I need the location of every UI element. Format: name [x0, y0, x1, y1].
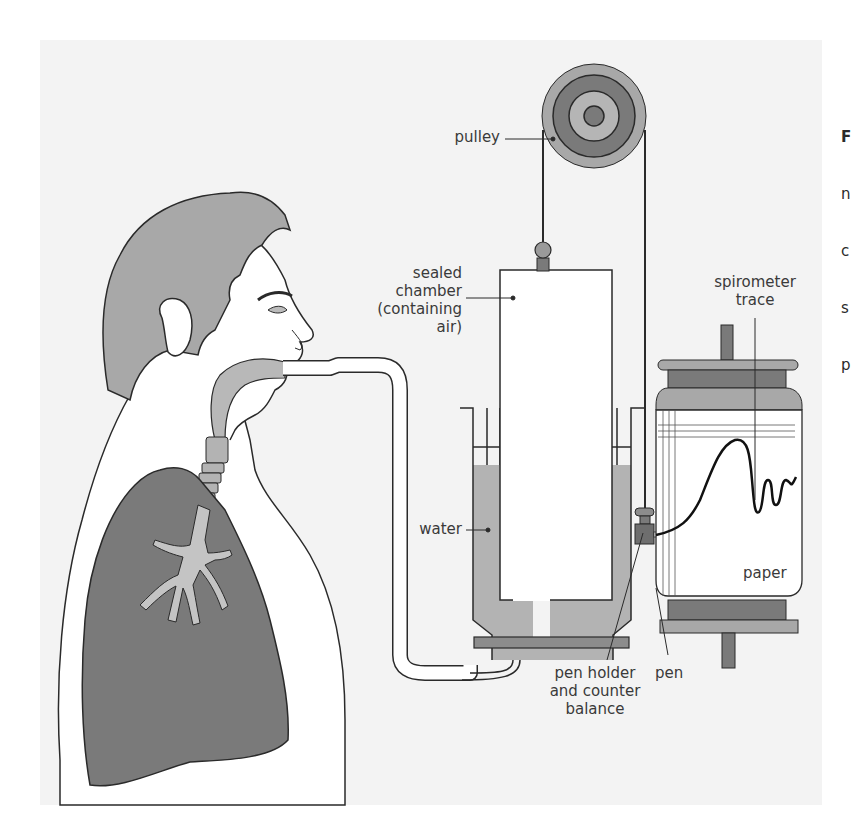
- truncated-caption: F n c s p: [841, 90, 857, 394]
- person-illustration: [58, 192, 345, 805]
- label-pen-holder-line-2: and counter: [540, 682, 650, 700]
- label-sealed-chamber-line-3: (containing air): [360, 300, 462, 336]
- label-water: water: [400, 520, 462, 538]
- label-pen-holder: pen holder and counter balance: [540, 664, 650, 718]
- bell-mount: [537, 258, 549, 271]
- bell-hook: [535, 242, 551, 258]
- label-paper: paper: [743, 564, 787, 582]
- caption-char-3: c: [841, 242, 857, 261]
- caption-char-1: F: [841, 128, 857, 147]
- label-pulley: pulley: [420, 128, 500, 146]
- label-sealed-chamber-line-2: chamber: [360, 282, 462, 300]
- label-spirometer-trace-line-2: trace: [700, 291, 810, 309]
- label-spirometer-trace: spirometer trace: [700, 273, 810, 309]
- spirometer-diagram: [0, 0, 857, 834]
- label-spirometer-trace-line-1: spirometer: [700, 273, 810, 291]
- recording-drum: [656, 325, 802, 668]
- label-pen-holder-line-3: balance: [540, 700, 650, 718]
- caption-char-2: n: [841, 185, 857, 204]
- pen-holder: [635, 508, 658, 544]
- sealed-chamber: [500, 242, 612, 601]
- label-sealed-chamber-line-1: sealed: [360, 264, 462, 282]
- tank-base: [474, 637, 629, 648]
- label-pen: pen: [655, 664, 683, 682]
- caption-char-4: s: [841, 299, 857, 318]
- label-sealed-chamber: sealed chamber (containing air): [360, 264, 462, 336]
- label-pen-holder-line-1: pen holder: [540, 664, 650, 682]
- caption-char-5: p: [841, 356, 857, 375]
